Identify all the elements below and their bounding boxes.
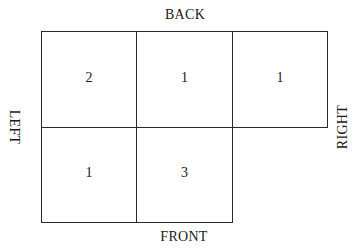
grid-cell-front-left: 1 — [41, 127, 137, 223]
front-label: FRONT — [160, 230, 207, 244]
grid-cell-back-center: 1 — [136, 31, 233, 128]
right-label: RIGHT — [336, 105, 350, 149]
grid-cell-back-left: 2 — [41, 31, 137, 128]
grid-cell-front-center: 3 — [136, 127, 233, 223]
cell-value: 2 — [86, 70, 93, 86]
cell-value: 1 — [181, 70, 188, 86]
back-label: BACK — [165, 8, 205, 22]
left-label: LEFT — [7, 110, 21, 145]
cell-value: 1 — [86, 165, 93, 181]
cell-value: 1 — [277, 70, 284, 86]
grid-cell-back-right: 1 — [232, 31, 328, 128]
cell-value: 3 — [181, 165, 188, 181]
